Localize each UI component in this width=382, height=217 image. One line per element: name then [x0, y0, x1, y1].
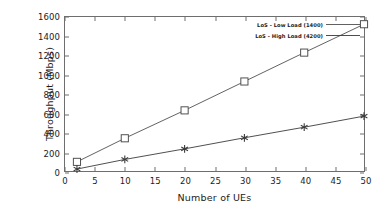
y-tick-label: 1400: [38, 32, 60, 42]
asterisk-marker: [74, 165, 81, 173]
y-tick-mark-right: [360, 173, 364, 174]
x-tick-mark: [366, 167, 367, 171]
y-tick-label: 600: [43, 110, 60, 120]
legend-label: LoS - Low Load (1400): [257, 22, 323, 28]
y-tick-mark: [65, 114, 69, 115]
legend-label: LoS - High Load (4200): [255, 33, 323, 39]
x-tick-mark-top: [155, 17, 156, 21]
x-tick-mark-top: [366, 17, 367, 21]
series-0: [73, 21, 367, 166]
data-series-layer: [65, 17, 364, 171]
square-marker: [360, 21, 367, 28]
y-tick-label: 800: [43, 90, 60, 100]
y-tick-label: 1000: [38, 71, 60, 81]
y-tick-mark-right: [360, 134, 364, 135]
asterisk-marker: [241, 134, 248, 142]
legend-item: LoS - High Load (4200): [255, 31, 360, 40]
y-tick-mark: [65, 75, 69, 76]
square-marker: [301, 49, 308, 56]
x-axis-title: Number of UEs: [64, 192, 365, 203]
x-tick-mark: [335, 167, 336, 171]
x-tick-label: 5: [92, 176, 98, 186]
x-tick-label: 50: [360, 176, 371, 186]
y-tick-mark: [65, 56, 69, 57]
asterisk-marker: [121, 156, 128, 164]
y-tick-mark: [65, 36, 69, 37]
series-1: [74, 112, 368, 173]
y-tick-mark: [65, 134, 69, 135]
y-tick-label: 1200: [38, 51, 60, 61]
y-tick-label: 0: [54, 168, 60, 178]
x-tick-mark: [245, 167, 246, 171]
x-tick-mark: [95, 167, 96, 171]
x-tick-mark: [215, 167, 216, 171]
y-tick-mark: [65, 173, 69, 174]
chart-legend: LoS - Low Load (1400)LoS - High Load (42…: [255, 20, 360, 40]
x-tick-label: 0: [62, 176, 68, 186]
x-tick-mark-top: [245, 17, 246, 21]
x-tick-label: 35: [270, 176, 281, 186]
square-marker: [181, 107, 188, 114]
x-tick-mark: [275, 167, 276, 171]
x-tick-mark: [125, 167, 126, 171]
legend-sample: [326, 20, 360, 29]
y-tick-mark-right: [360, 17, 364, 18]
y-tick-mark-right: [360, 153, 364, 154]
asterisk-marker: [181, 145, 188, 153]
plot-area: 02004006008001000120014001600 0510152025…: [64, 16, 365, 172]
x-tick-mark: [65, 167, 66, 171]
chart-screenshot: Throughput (Mbps) Number of UEs 02004006…: [0, 0, 382, 217]
x-tick-label: 15: [150, 176, 161, 186]
x-tick-mark-top: [215, 17, 216, 21]
y-tick-mark-right: [360, 114, 364, 115]
y-tick-mark-right: [360, 36, 364, 37]
y-tick-mark: [65, 17, 69, 18]
x-tick-mark-top: [65, 17, 66, 21]
x-tick-mark-top: [95, 17, 96, 21]
y-tick-mark-right: [360, 56, 364, 57]
asterisk-marker: [301, 123, 308, 131]
x-tick-label: 20: [180, 176, 191, 186]
square-marker: [241, 78, 248, 85]
y-tick-mark-right: [360, 95, 364, 96]
series-line: [77, 24, 364, 162]
y-tick-mark: [65, 95, 69, 96]
x-tick-mark: [305, 167, 306, 171]
legend-item: LoS - Low Load (1400): [257, 20, 360, 29]
y-tick-label: 1600: [38, 12, 60, 22]
x-tick-mark: [185, 167, 186, 171]
x-tick-label: 40: [300, 176, 311, 186]
square-marker: [73, 158, 80, 165]
series-line: [77, 116, 364, 169]
x-tick-label: 10: [120, 176, 131, 186]
x-tick-label: 30: [240, 176, 251, 186]
x-tick-label: 45: [330, 176, 341, 186]
legend-sample: [326, 31, 360, 40]
x-tick-mark-top: [185, 17, 186, 21]
square-marker: [121, 135, 128, 142]
y-tick-label: 200: [43, 149, 60, 159]
y-tick-label: 400: [43, 129, 60, 139]
y-tick-mark-right: [360, 75, 364, 76]
x-tick-mark: [155, 167, 156, 171]
y-tick-mark: [65, 153, 69, 154]
x-tick-mark-top: [125, 17, 126, 21]
x-tick-label: 25: [210, 176, 221, 186]
